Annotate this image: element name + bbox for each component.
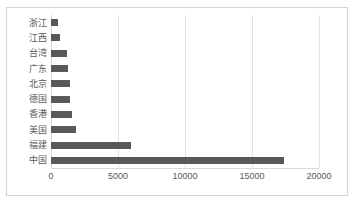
x-tick-label: 20000	[306, 171, 331, 181]
chart-container: 浙江江西台湾广东北京德国香港美国福建中国 0500010000150002000…	[6, 7, 348, 196]
bar-row	[51, 122, 76, 137]
bar-row	[51, 15, 58, 30]
bar[interactable]	[51, 142, 131, 149]
bar[interactable]	[51, 19, 58, 26]
x-tick-label: 0	[48, 171, 53, 181]
bar[interactable]	[51, 157, 284, 164]
category-label: 台湾	[3, 48, 47, 58]
bar[interactable]	[51, 96, 70, 103]
category-label: 德国	[3, 94, 47, 104]
category-label: 福建	[3, 140, 47, 150]
category-label: 美国	[3, 125, 47, 135]
bar-row	[51, 153, 284, 168]
bar[interactable]	[51, 50, 67, 57]
x-axis-line	[51, 168, 319, 169]
bar-row	[51, 76, 70, 91]
bar[interactable]	[51, 65, 68, 72]
x-tick-label: 5000	[108, 171, 128, 181]
category-label: 中国	[3, 155, 47, 165]
category-label: 北京	[3, 79, 47, 89]
value-axis: 05000100001500020000	[51, 171, 319, 189]
category-label: 香港	[3, 109, 47, 119]
bar[interactable]	[51, 126, 76, 133]
gridline-15000	[252, 15, 253, 168]
bar-row	[51, 30, 60, 45]
bar[interactable]	[51, 80, 70, 87]
bar-row	[51, 107, 72, 122]
bar-row	[51, 61, 68, 76]
category-label: 浙江	[3, 18, 47, 28]
bar[interactable]	[51, 34, 60, 41]
bar-row	[51, 137, 131, 152]
bar-row	[51, 46, 67, 61]
gridline-10000	[185, 15, 186, 168]
bar-row	[51, 92, 70, 107]
category-label: 广东	[3, 64, 47, 74]
plot-area	[51, 15, 319, 168]
x-tick-label: 15000	[239, 171, 264, 181]
x-tick-label: 10000	[172, 171, 197, 181]
category-label: 江西	[3, 33, 47, 43]
category-axis: 浙江江西台湾广东北京德国香港美国福建中国	[7, 15, 47, 168]
gridline-20000	[319, 15, 320, 168]
bar[interactable]	[51, 111, 72, 118]
